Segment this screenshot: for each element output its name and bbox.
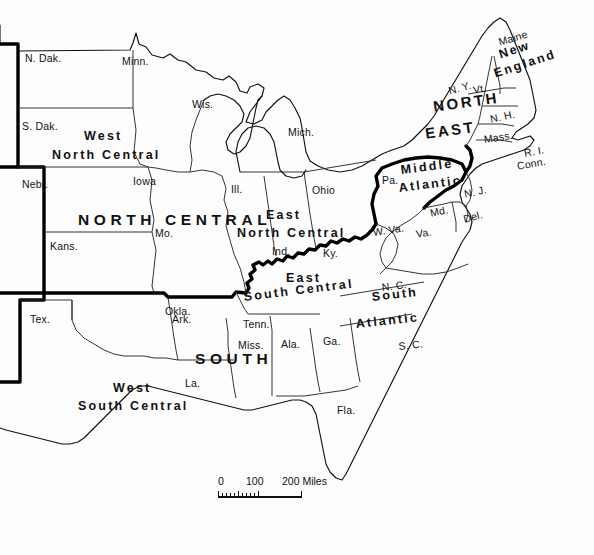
state-label-ind: Ind. xyxy=(272,245,290,257)
scale-bar: 0 100 200 Miles xyxy=(218,475,358,499)
state-label-ark: Ark. xyxy=(172,313,191,325)
division-label-west-south-central-1: West xyxy=(113,381,151,395)
region-label-south: SOUTH xyxy=(195,350,272,368)
state-label-pa: Pa. xyxy=(382,174,398,186)
scale-tick xyxy=(226,493,227,498)
division-label-west-north-central-1: West xyxy=(84,129,122,143)
us-census-regions-map: N. Dak. Minn. S. Dak. Wis. Mich. Nebr. I… xyxy=(0,0,594,555)
state-label-ill: Ill. xyxy=(231,183,242,195)
scale-tick xyxy=(230,493,231,498)
west-region-boundary xyxy=(0,44,18,167)
state-label-wis: Wis. xyxy=(192,98,213,110)
north-central-south-boundary xyxy=(44,292,246,297)
scale-tick xyxy=(234,493,235,498)
scale-tick xyxy=(218,491,219,498)
state-label-s-dak: S. Dak. xyxy=(22,120,58,132)
north-east-boundary xyxy=(466,146,472,172)
scale-tick xyxy=(238,491,239,498)
scale-label-mid: 100 xyxy=(246,475,264,487)
scale-tick xyxy=(246,493,247,498)
west-region-boundary-3 xyxy=(0,293,44,382)
scale-label-zero: 0 xyxy=(218,475,224,487)
scale-tick xyxy=(250,493,251,498)
state-label-kans: Kans. xyxy=(50,240,78,252)
scale-label-max: 200 Miles xyxy=(282,475,327,487)
scale-tick xyxy=(258,491,259,498)
division-label-west-north-central-2: North Central xyxy=(52,148,160,162)
division-label-west-south-central-2: South Central xyxy=(78,399,189,413)
state-label-ohio: Ohio xyxy=(312,184,335,196)
division-label-east-north-central-1: East xyxy=(266,208,301,222)
scale-tick xyxy=(254,493,255,498)
state-label-tenn: Tenn. xyxy=(243,318,270,330)
state-label-la: La. xyxy=(185,377,200,389)
state-label-fla: Fla. xyxy=(337,404,355,416)
state-label-mich: Mich. xyxy=(288,126,314,138)
scale-tick xyxy=(301,491,302,498)
state-label-sc: S. C. xyxy=(398,337,423,351)
state-label-iowa: Iowa xyxy=(133,175,156,187)
scale-labels: 0 100 200 Miles xyxy=(218,475,358,489)
division-label-east-north-central-2: North Central xyxy=(237,226,345,240)
state-label-nebr: Nebr. xyxy=(22,178,48,190)
state-label-ky: Ky. xyxy=(323,247,338,259)
scale-tick xyxy=(222,493,223,498)
state-label-ala: Ala. xyxy=(281,338,300,350)
state-label-n-dak: N. Dak. xyxy=(25,52,61,64)
state-label-ga: Ga. xyxy=(323,335,341,347)
state-label-tex: Tex. xyxy=(30,313,50,325)
state-label-minn: Minn. xyxy=(122,55,149,67)
scale-bar-graphic xyxy=(218,490,358,499)
scale-tick xyxy=(242,493,243,498)
